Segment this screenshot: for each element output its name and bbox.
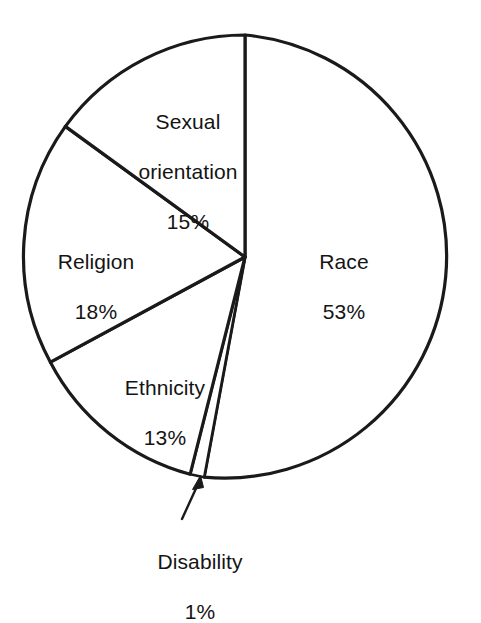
pie-label-sexual-orientation-line1: Sexual (120, 109, 256, 134)
pie-label-ethnicity: Ethnicity 13% (92, 350, 238, 475)
pie-label-race: Race 53% (283, 224, 405, 349)
pie-label-sexual-orientation-line2: orientation (120, 159, 256, 184)
pie-label-disability-value: 1% (126, 599, 274, 623)
pie-label-disability: Disability 1% (126, 524, 274, 623)
pie-label-religion-name: Religion (26, 249, 166, 274)
pie-label-race-name: Race (283, 249, 405, 274)
pie-label-disability-name: Disability (126, 549, 274, 574)
pie-label-ethnicity-name: Ethnicity (92, 375, 238, 400)
pie-label-ethnicity-value: 13% (92, 425, 238, 450)
pie-label-religion: Religion 18% (26, 224, 166, 349)
pie-label-religion-value: 18% (26, 299, 166, 324)
pie-label-race-value: 53% (283, 299, 405, 324)
